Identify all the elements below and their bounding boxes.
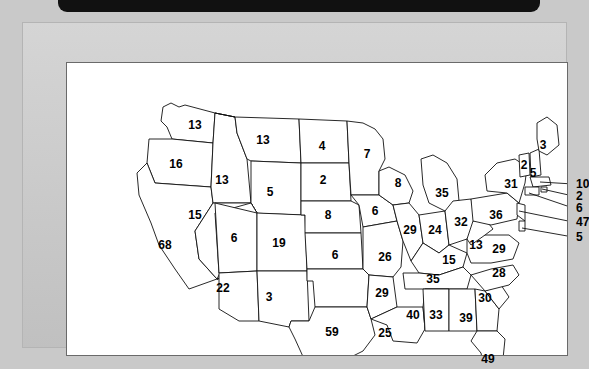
state-value-mn: 7 — [364, 148, 371, 160]
state-value-az: 22 — [216, 282, 229, 294]
state-value-fl: 49 — [481, 353, 494, 365]
state-outlines — [137, 103, 559, 355]
state-value-nh: 5 — [530, 167, 537, 179]
state-value-ar: 25 — [378, 327, 391, 339]
state-value-ms: 33 — [429, 309, 442, 321]
state-value-la: 40 — [406, 309, 419, 321]
state-value-nd: 4 — [319, 140, 326, 152]
map-panel: 1313471613528351561986292432363168626132… — [66, 62, 568, 356]
state-value-al: 39 — [459, 312, 472, 324]
state-value-ok: 29 — [375, 287, 388, 299]
state-value-ia: 6 — [372, 205, 379, 217]
state-value-wy: 5 — [267, 186, 274, 198]
state-value-tn: 35 — [426, 273, 439, 285]
leader-line-ct — [529, 193, 567, 208]
state-value-me: 3 — [540, 139, 547, 151]
state-value-il: 29 — [403, 224, 416, 236]
state-value-wi: 8 — [395, 177, 402, 189]
callout-value-ct: 6 — [576, 202, 583, 214]
state-value-sc: 30 — [478, 292, 491, 304]
state-value-mi: 35 — [435, 187, 448, 199]
window-topbar — [58, 0, 540, 12]
state-value-pa: 36 — [489, 209, 502, 221]
state-value-nm: 3 — [266, 291, 273, 303]
state-value-mo: 26 — [378, 251, 391, 263]
state-value-va: 29 — [492, 243, 505, 255]
state-value-or: 16 — [169, 158, 182, 170]
state-value-co: 19 — [272, 237, 285, 249]
state-value-id: 13 — [215, 174, 228, 186]
state-value-ks: 6 — [332, 249, 339, 261]
leader-line-nj — [519, 211, 567, 222]
state-value-ca: 68 — [158, 239, 171, 251]
state-value-in: 24 — [428, 224, 441, 236]
state-value-vt: 2 — [521, 159, 528, 171]
state-value-wa: 13 — [188, 119, 201, 131]
state-value-ne: 8 — [325, 209, 332, 221]
state-value-mt: 13 — [256, 134, 269, 146]
state-value-ny: 31 — [504, 178, 517, 190]
state-value-sd: 2 — [320, 174, 327, 186]
leader-line-ri — [542, 189, 567, 196]
callout-value-nj: 47 — [576, 216, 589, 228]
state-value-wv: 13 — [469, 239, 482, 251]
state-value-oh: 32 — [454, 216, 467, 228]
state-value-nv: 15 — [188, 209, 201, 221]
callout-value-de: 5 — [576, 231, 583, 243]
leader-line-de — [522, 228, 567, 237]
us-map: 1313471613528351561986292432363168626132… — [67, 63, 567, 355]
state-value-ky: 15 — [442, 254, 455, 266]
window-frame: 1313471613528351561986292432363168626132… — [22, 22, 567, 348]
state-value-ut: 6 — [231, 232, 238, 244]
state-value-nc: 28 — [492, 267, 505, 279]
state-value-tx: 59 — [325, 326, 338, 338]
